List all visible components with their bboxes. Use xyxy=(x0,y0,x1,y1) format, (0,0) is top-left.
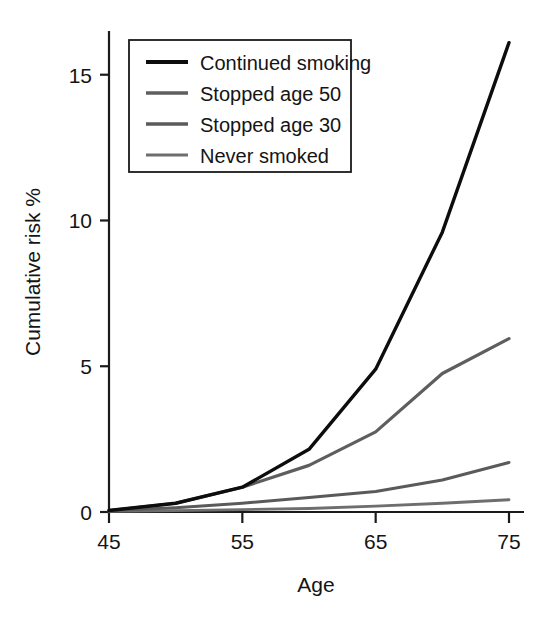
legend-label: Never smoked xyxy=(200,145,329,167)
chart-figure: 051015 45556575 Age Cumulative risk % Co… xyxy=(0,0,536,619)
x-tick-label: 45 xyxy=(97,530,120,553)
legend-label: Continued smoking xyxy=(200,52,371,74)
x-tick-label: 65 xyxy=(364,530,387,553)
x-axis-ticks: 45556575 xyxy=(97,512,520,553)
legend-label: Stopped age 30 xyxy=(200,114,341,136)
x-axis-title: Age xyxy=(297,573,334,596)
line-chart: 051015 45556575 Age Cumulative risk % Co… xyxy=(0,0,536,619)
y-tick-label: 10 xyxy=(69,209,92,232)
series-line xyxy=(109,339,509,511)
chart-legend: Continued smokingStopped age 50Stopped a… xyxy=(129,40,371,172)
x-tick-label: 55 xyxy=(231,530,254,553)
y-tick-label: 0 xyxy=(80,501,92,524)
y-axis-ticks: 051015 xyxy=(69,64,109,524)
y-tick-label: 5 xyxy=(80,355,92,378)
y-tick-label: 15 xyxy=(69,64,92,87)
legend-label: Stopped age 50 xyxy=(200,83,341,105)
x-tick-label: 75 xyxy=(497,530,520,553)
y-axis-title: Cumulative risk % xyxy=(21,188,44,356)
